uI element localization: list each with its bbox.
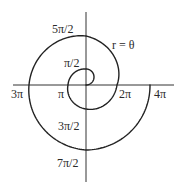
angle-labels: π/2π3π/22π5π/23π7π/24π <box>11 22 166 170</box>
equation-label: r = θ <box>112 38 135 52</box>
label-seven-pi-over-2: 7π/2 <box>57 156 78 170</box>
spiral-diagram: r = θ π/2π3π/22π5π/23π7π/24π <box>0 0 180 193</box>
label-five-pi-over-2: 5π/2 <box>52 22 73 36</box>
spiral-curve <box>29 36 150 150</box>
label-four-pi: 4π <box>154 87 166 101</box>
label-three-pi-over-2: 3π/2 <box>58 119 79 133</box>
label-pi-over-2: π/2 <box>64 56 79 70</box>
label-three-pi: 3π <box>11 87 23 101</box>
label-pi: π <box>58 87 64 101</box>
label-two-pi: 2π <box>119 87 131 101</box>
